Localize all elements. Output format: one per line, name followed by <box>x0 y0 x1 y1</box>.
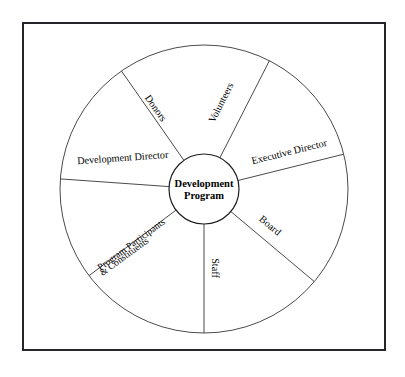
hub-label-line1: Development <box>175 178 234 189</box>
wheel-diagram-figure: Development Program Volunteers Executive… <box>0 0 405 377</box>
hub-label-line2: Program <box>184 190 224 201</box>
wheel-graphic: Development Program Volunteers Executive… <box>0 0 405 377</box>
hub-circle <box>169 154 239 224</box>
sector-label-staff: Staff <box>210 258 221 278</box>
